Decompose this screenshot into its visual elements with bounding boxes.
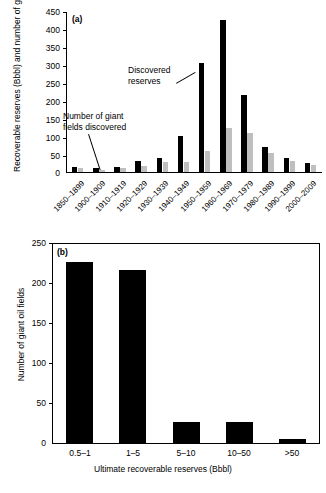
panel-b-x-axis-label: Ultimate recoverable reserves (Bbbl): [0, 464, 326, 474]
panel-b-bar-10–50: [226, 422, 253, 443]
panel-b-xcat-3: 10–50: [216, 448, 262, 458]
panel-b-bar->50: [279, 439, 306, 443]
panel-b-xcat-2: 5–10: [163, 448, 209, 458]
panel-b-y-axis-label: Number of giant oil fields: [16, 247, 26, 422]
panel-a-ytick-400: 400: [36, 26, 60, 35]
panel-b-bars: [53, 243, 319, 443]
panel-a-ytick-300: 300: [36, 62, 60, 71]
panel-a-bar-1940–1949-fields: [184, 162, 190, 172]
panel-a-bar-1960–1969-fields: [226, 128, 232, 172]
panel-a-bar-1910–1919-fields: [120, 168, 126, 172]
panel-a-bar-1990–1999-reserves: [284, 158, 290, 172]
panel-b-bar-0.5–1: [66, 262, 93, 443]
panel-a-ytick-100: 100: [36, 134, 60, 143]
panel-a-bar-1850–1899-reserves: [72, 167, 78, 172]
panel-a-bar-1850–1899-fields: [78, 168, 84, 172]
panel-a-ytick-200: 200: [36, 98, 60, 107]
panel-a-ytick-450: 450: [36, 8, 60, 17]
panel-a-ytick-150: 150: [36, 116, 60, 125]
panel-b-xcat-1: 1–5: [110, 448, 156, 458]
panel-b-bar-1–5: [119, 270, 146, 443]
panel-a: Recoverable reserves (Bbbl) and number o…: [0, 0, 326, 232]
panel-a-bar-1960–1969-reserves: [220, 20, 226, 172]
panel-a-bar-1930–1939-reserves: [157, 158, 163, 172]
panel-b-ytick-0: 0: [22, 439, 46, 448]
panel-a-ytick-350: 350: [36, 44, 60, 53]
panel-b-xcat-4: >50: [269, 448, 315, 458]
panel-b-frame-right: [319, 243, 320, 443]
panel-b-ytick-200: 200: [22, 279, 46, 288]
panel-b-ytick-100: 100: [22, 359, 46, 368]
panel-a-ytick-0: 0: [36, 169, 60, 178]
figure-two-panel-bar-charts: Recoverable reserves (Bbbl) and number o…: [0, 0, 326, 493]
panel-a-bar-1950–1959-fields: [205, 151, 211, 172]
panel-a-bar-1940–1949-reserves: [178, 136, 184, 172]
panel-a-ytick-50: 50: [36, 152, 60, 161]
panel-a-bar-1900–1909-reserves: [93, 168, 99, 172]
panel-a-y-axis-label: Recoverable reserves (Bbbl) and number o…: [12, 7, 22, 172]
panel-a-x-axis: [66, 172, 322, 173]
panel-a-bar-2000–2009-fields: [311, 165, 317, 172]
panel-a-bar-1970–1979-fields: [247, 133, 253, 172]
panel-a-bar-1920–1929-reserves: [135, 161, 141, 172]
panel-b-bar-5–10: [173, 422, 200, 443]
panel-b-xcat-0: 0.5–1: [57, 448, 103, 458]
panel-b-ytick-50: 50: [22, 399, 46, 408]
panel-a-bar-1980–1989-reserves: [262, 147, 268, 172]
panel-a-bar-1980–1989-fields: [268, 153, 274, 172]
panel-b-x-axis: [52, 443, 320, 444]
panel-a-bar-1920–1929-fields: [141, 166, 147, 172]
panel-a-bar-1910–1919-reserves: [114, 167, 120, 172]
panel-a-bar-1990–1999-fields: [290, 161, 296, 172]
panel-a-ytick-250: 250: [36, 80, 60, 89]
panel-a-bar-1950–1959-reserves: [199, 63, 205, 172]
panel-b-ytick-150: 150: [22, 319, 46, 328]
panel-a-bar-2000–2009-reserves: [305, 163, 311, 172]
panel-a-bar-1900–1909-fields: [99, 170, 105, 172]
panel-a-bar-1970–1979-reserves: [241, 95, 247, 172]
panel-a-bar-1930–1939-fields: [163, 162, 169, 172]
panel-b: Number of giant oil fields 250 200 150 1…: [0, 232, 326, 493]
panel-b-ytick-250: 250: [22, 239, 46, 248]
panel-a-bars: [67, 11, 321, 172]
